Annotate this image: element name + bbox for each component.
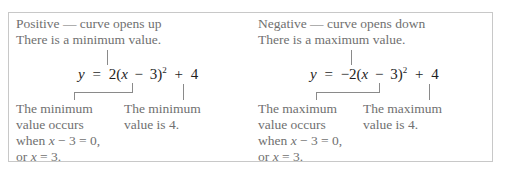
- connector-coefficient: [107, 50, 108, 65]
- positive-note-right-1: The minimum: [124, 101, 201, 117]
- positive-subheading: There is a minimum value.: [16, 32, 161, 48]
- eq-y: y: [78, 66, 85, 82]
- positive-note-left-1: The minimum: [16, 101, 93, 117]
- connector-h-horizontal: [316, 92, 380, 93]
- eq-exponent: 2: [403, 65, 408, 75]
- positive-heading: Positive — curve opens up: [16, 16, 161, 32]
- eq-x: x: [121, 66, 128, 82]
- positive-note-left-2: value occurs: [16, 117, 84, 133]
- eq-minus: −: [375, 66, 383, 82]
- panel-positive: Positive — curve opens up There is a min…: [0, 0, 252, 177]
- connector-h-drop: [74, 92, 75, 100]
- eq-coefficient: −2: [341, 66, 357, 82]
- negative-subheading: There is a maximum value.: [258, 32, 405, 48]
- eq-equals: =: [92, 66, 100, 82]
- eq-plus: +: [415, 66, 423, 82]
- eq-minus: −: [135, 66, 143, 82]
- negative-note-left-1: The maximum: [258, 101, 337, 117]
- eq-equals: =: [324, 66, 332, 82]
- eq-plus: +: [175, 66, 183, 82]
- negative-note-left-3: when x − 3 = 0,: [258, 133, 342, 149]
- eq-k: 4: [191, 66, 199, 82]
- positive-note-left-4: or x = 3.: [16, 149, 61, 165]
- connector-h-vertical: [379, 83, 380, 92]
- panel-negative: Negative — curve opens down There is a m…: [252, 0, 505, 177]
- negative-equation: y = −2(x − 3)2 + 4: [310, 65, 439, 83]
- positive-note-right-2: value is 4.: [124, 117, 179, 133]
- connector-h-horizontal: [74, 92, 133, 93]
- eq-h: 3: [390, 66, 398, 82]
- positive-equation: y = 2(x − 3)2 + 4: [78, 65, 198, 83]
- negative-note-right-2: value is 4.: [363, 117, 418, 133]
- connector-h-vertical: [132, 83, 133, 92]
- negative-note-left-4: or x = 3.: [258, 149, 303, 165]
- eq-y: y: [310, 66, 317, 82]
- negative-heading: Negative — curve opens down: [258, 16, 425, 32]
- eq-k: 4: [431, 66, 439, 82]
- positive-note-left-3: when x − 3 = 0,: [16, 133, 100, 149]
- negative-note-left-2: value occurs: [258, 117, 326, 133]
- connector-k: [183, 84, 184, 100]
- connector-k: [429, 84, 430, 100]
- negative-note-right-1: The maximum: [363, 101, 442, 117]
- connector-h-drop: [316, 92, 317, 100]
- eq-x: x: [362, 66, 369, 82]
- eq-exponent: 2: [162, 65, 167, 75]
- connector-coefficient: [351, 50, 352, 65]
